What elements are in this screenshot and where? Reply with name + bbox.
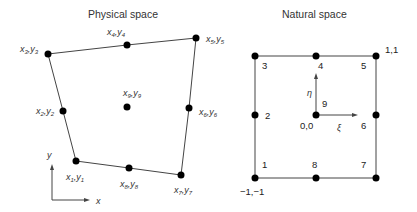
physical-boundary bbox=[48, 38, 196, 175]
center-label: 0,0 bbox=[300, 120, 313, 131]
physical-node-8 bbox=[126, 165, 133, 172]
physical-node-3 bbox=[45, 51, 52, 58]
natural-node-6 bbox=[373, 112, 380, 119]
natural-node-label-3: 3 bbox=[262, 60, 267, 71]
physical-node-2 bbox=[60, 108, 67, 115]
physical-node-label-8: x8,y8 bbox=[119, 179, 139, 190]
physical-node-label-3: x3,y3 bbox=[19, 44, 39, 55]
physical-node-9 bbox=[124, 104, 131, 111]
physical-space-title: Physical space bbox=[88, 8, 158, 20]
isoparametric-mapping-diagram: Physical space Natural space x1,y1x2,y2x… bbox=[0, 0, 417, 212]
physical-node-label-7: x7,y7 bbox=[173, 185, 193, 196]
xi-arrow-head-icon bbox=[352, 113, 358, 117]
natural-node-8 bbox=[313, 175, 320, 182]
physical-node-label-2: x2,y2 bbox=[35, 106, 55, 117]
eta-label: η bbox=[307, 88, 312, 98]
physical-node-label-6: x6,y6 bbox=[198, 107, 218, 118]
x-arrow-head-icon bbox=[84, 198, 90, 202]
physical-node-6 bbox=[186, 105, 193, 112]
physical-element-nodes bbox=[45, 35, 200, 179]
natural-node-label-8: 8 bbox=[312, 159, 317, 170]
corner-label-top-right: 1,1 bbox=[385, 44, 398, 55]
natural-node-label-2: 2 bbox=[265, 110, 270, 121]
xi-label: ξ bbox=[337, 123, 342, 133]
natural-node-3 bbox=[252, 53, 259, 60]
natural-node-label-4: 4 bbox=[318, 60, 323, 71]
natural-node-1 bbox=[252, 175, 259, 182]
eta-arrow-head-icon bbox=[314, 73, 318, 79]
physical-node-label-9: x9,y9 bbox=[122, 88, 142, 99]
corner-label-bottom-left: −1,−1 bbox=[240, 186, 264, 197]
physical-node-4 bbox=[124, 42, 131, 49]
natural-node-label-5: 5 bbox=[361, 60, 366, 71]
physical-node-7 bbox=[178, 172, 185, 179]
y-axis-label: y bbox=[46, 150, 52, 160]
natural-node-2 bbox=[252, 112, 259, 119]
natural-node-label-9: 9 bbox=[322, 98, 327, 109]
natural-node-7 bbox=[373, 175, 380, 182]
natural-element-nodes: 123456789 bbox=[252, 53, 380, 182]
physical-node-label-5: x5,y5 bbox=[205, 34, 225, 45]
physical-node-label-1: x1,y1 bbox=[65, 172, 84, 183]
natural-node-label-7: 7 bbox=[361, 159, 366, 170]
y-arrow-head-icon bbox=[50, 164, 54, 170]
physical-node-label-4: x4,y4 bbox=[106, 27, 126, 38]
natural-node-4 bbox=[313, 53, 320, 60]
natural-node-5 bbox=[373, 53, 380, 60]
physical-node-5 bbox=[193, 35, 200, 42]
physical-node-1 bbox=[73, 158, 80, 165]
natural-space-title: Natural space bbox=[282, 8, 347, 20]
natural-node-label-1: 1 bbox=[262, 159, 267, 170]
natural-node-9 bbox=[313, 112, 320, 119]
natural-node-label-6: 6 bbox=[361, 120, 366, 131]
x-axis-label: x bbox=[95, 196, 101, 206]
physical-element-edges bbox=[48, 38, 196, 175]
